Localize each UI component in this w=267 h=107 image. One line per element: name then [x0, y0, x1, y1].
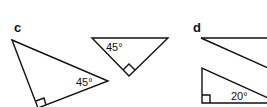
right-angle-marker: [36, 98, 46, 105]
right-angle-marker: [123, 64, 135, 70]
triangle-diagram: c 45° 45° d 20°: [0, 0, 267, 107]
panel-label-d: d: [193, 20, 201, 35]
triangle-d2: 20°: [202, 68, 267, 103]
panel-label-c: c: [14, 20, 21, 35]
triangle-d1: [201, 38, 267, 68]
angle-label-c1: 45°: [76, 76, 93, 88]
angle-label-c2: 45°: [106, 41, 123, 53]
triangle-c2: 45°: [92, 38, 168, 76]
triangle-c1: 45°: [12, 40, 108, 107]
angle-label-d2: 20°: [231, 90, 248, 102]
right-angle-marker: [202, 95, 210, 103]
